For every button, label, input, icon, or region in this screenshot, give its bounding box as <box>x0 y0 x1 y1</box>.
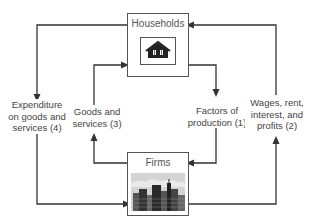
goods-services-label: Goods and services (3) <box>72 106 122 129</box>
wages-flow-top <box>190 25 276 95</box>
city-skyline-icon <box>131 173 185 211</box>
expenditure-flow-bottom <box>37 128 127 204</box>
factors-flow-top <box>188 65 216 93</box>
households-node: Households <box>127 13 189 77</box>
expenditure-label: Expenditure on goods and services (4) <box>4 99 70 134</box>
wages-rent-interest-profits-label: Wages, rent, interest, and profits (2) <box>245 97 309 132</box>
households-title: Households <box>128 18 188 29</box>
house-image-frame <box>140 37 176 65</box>
house-icon <box>141 38 175 64</box>
factors-flow-bottom <box>190 128 216 163</box>
wages-flow-bottom <box>188 140 276 204</box>
expenditure-flow-top <box>37 25 127 98</box>
firms-title: Firms <box>128 157 188 168</box>
factors-of-production-label: Factors of production (1) <box>186 105 248 128</box>
goods-flow-top <box>94 65 125 105</box>
firms-node: Firms <box>127 152 189 216</box>
goods-flow-bottom <box>94 137 127 163</box>
